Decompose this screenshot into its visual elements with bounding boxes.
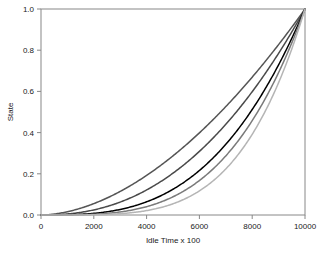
y-tick-label: 0.0 xyxy=(23,211,35,220)
x-tick-label: 8000 xyxy=(243,222,261,231)
y-tick-label: 0.4 xyxy=(23,129,35,138)
x-tick-label: 2000 xyxy=(85,222,103,231)
x-axis-label: Idle Time x 100 xyxy=(146,236,201,245)
y-tick-label: 0.6 xyxy=(23,87,35,96)
y-tick-label: 1.0 xyxy=(23,5,35,14)
x-tick-label: 4000 xyxy=(138,222,156,231)
y-tick-label: 0.2 xyxy=(23,170,35,179)
line-chart: 0200040006000800010000 0.00.20.40.60.81.… xyxy=(0,0,333,253)
x-tick-label: 0 xyxy=(39,222,44,231)
x-tick-label: 6000 xyxy=(191,222,209,231)
chart-container: 0200040006000800010000 0.00.20.40.60.81.… xyxy=(0,0,333,253)
x-tick-label: 10000 xyxy=(294,222,317,231)
y-tick-label: 0.8 xyxy=(23,46,35,55)
y-axis-label: State xyxy=(6,102,15,121)
